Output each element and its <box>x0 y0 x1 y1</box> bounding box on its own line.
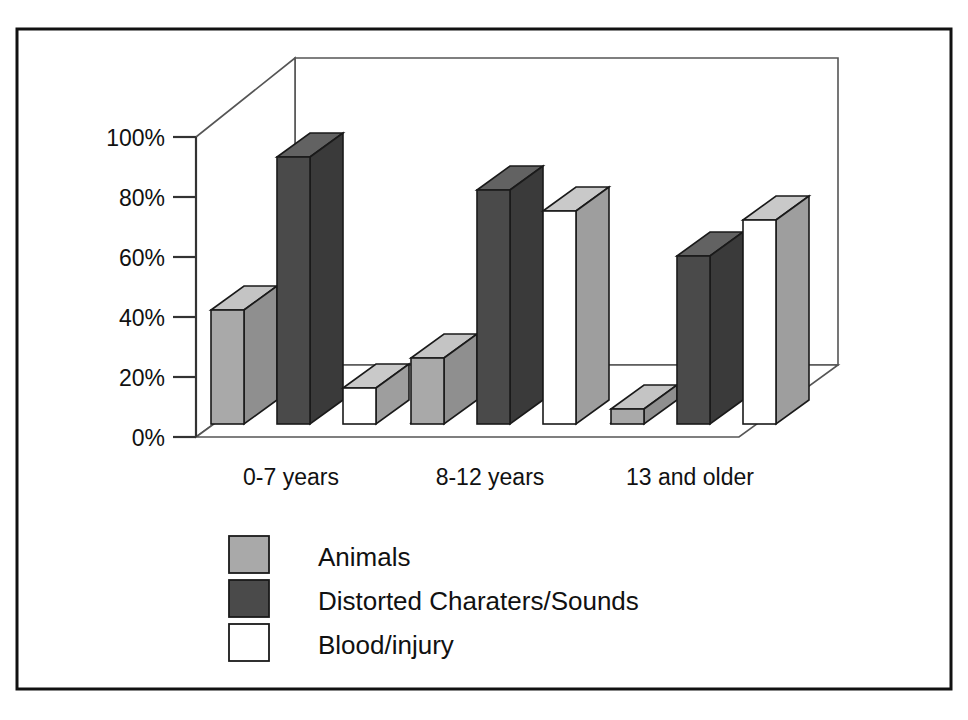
legend-item-blood-injury[interactable]: Blood/injury <box>229 624 454 661</box>
bar-blood-injury-13-and-older <box>743 196 809 424</box>
legend-swatch-distorted <box>229 580 269 617</box>
legend-swatch-animals <box>229 536 269 573</box>
bar-side-face <box>244 286 277 424</box>
y-tick-label-0: 0% <box>132 425 165 451</box>
x-axis-category-labels: 0-7 years 8-12 years 13 and older <box>243 464 754 490</box>
bar-animals-0-7-years <box>211 286 277 424</box>
y-tick-label-80: 80% <box>119 185 165 211</box>
bar-front-face <box>211 310 244 424</box>
bar-side-face <box>576 187 609 424</box>
bar-side-face <box>710 232 743 424</box>
bar-distorted-0-7-years <box>277 133 343 424</box>
grouped-3d-bar-chart: 100% 80% 60% 40% 20% 0% <box>0 0 968 720</box>
bar-front-face <box>343 388 376 424</box>
y-tick-label-40: 40% <box>119 305 165 331</box>
bar-distorted-8-12-years <box>477 166 543 424</box>
y-tick-label-60: 60% <box>119 245 165 271</box>
legend-label-animals: Animals <box>318 542 410 572</box>
bar-side-face <box>310 133 343 424</box>
bar-distorted-13-and-older <box>677 232 743 424</box>
legend-item-animals[interactable]: Animals <box>229 536 410 573</box>
bar-side-face <box>510 166 543 424</box>
x-label-0-7-years: 0-7 years <box>243 464 339 490</box>
bar-front-face <box>477 190 510 424</box>
y-tick-label-100: 100% <box>106 125 165 151</box>
legend-label-blood-injury: Blood/injury <box>318 630 454 660</box>
y-tick-label-20: 20% <box>119 365 165 391</box>
bar-front-face <box>277 157 310 424</box>
bar-front-face <box>743 220 776 424</box>
x-label-8-12-years: 8-12 years <box>436 464 545 490</box>
legend-label-distorted: Distorted Charaters/Sounds <box>318 586 639 616</box>
legend-swatch-blood-injury <box>229 624 269 661</box>
bar-front-face <box>677 256 710 424</box>
bar-side-face <box>776 196 809 424</box>
bar-blood-injury-8-12-years <box>543 187 609 424</box>
bar-front-face <box>611 409 644 424</box>
bar-front-face <box>411 358 444 424</box>
chart-figure: 100% 80% 60% 40% 20% 0% <box>0 0 968 720</box>
bar-front-face <box>543 211 576 424</box>
x-label-13-and-older: 13 and older <box>626 464 754 490</box>
